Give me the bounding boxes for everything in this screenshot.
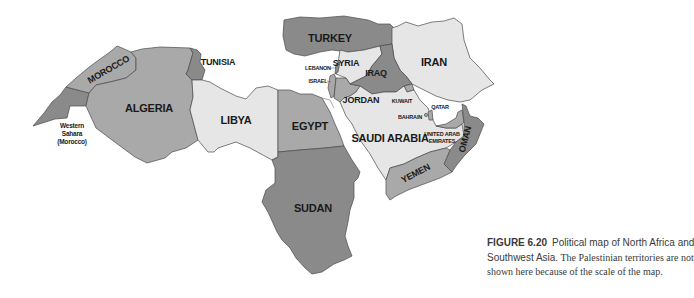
- label-algeria: ALGERIA: [125, 102, 173, 114]
- caption-line-3: shown here because of the scale of the m…: [487, 265, 618, 280]
- label-libya: LIBYA: [221, 114, 252, 126]
- label-syria: SYRIA: [333, 58, 360, 68]
- label-jordan: JORDAN: [343, 95, 380, 105]
- label-uae-2: EMIRATES: [429, 138, 456, 144]
- label-uae-1: UNITED ARAB: [424, 131, 460, 137]
- label-western-sahara-3: (Morocco): [57, 138, 87, 146]
- country-qatar: [428, 110, 433, 120]
- caption-line-1: FIGURE 6.20 Political map of North Afric…: [487, 236, 618, 251]
- caption-line1-text: Political map of North Africa and: [552, 237, 694, 248]
- label-western-sahara-2: Sahara: [62, 130, 83, 137]
- caption-line2-sans: Southwest Asia.: [487, 252, 558, 263]
- figure-caption: FIGURE 6.20 Political map of North Afric…: [487, 236, 618, 280]
- label-israel: ISRAEL: [309, 78, 329, 84]
- label-turkey: TURKEY: [308, 32, 353, 44]
- label-lebanon: LEBANON: [305, 65, 331, 71]
- country-western-sahara: [33, 87, 89, 126]
- figure-number: FIGURE 6.20: [487, 237, 547, 248]
- label-sudan: SUDAN: [294, 202, 332, 214]
- label-tunisia: TUNISIA: [201, 57, 236, 67]
- label-iraq: IRAQ: [365, 68, 387, 78]
- caption-line2-serif: The Palestinian territories are not: [560, 252, 693, 263]
- country-bahrain: [424, 113, 427, 116]
- caption-line-2: Southwest Asia. The Palestinian territor…: [487, 251, 618, 266]
- label-western-sahara-1: Western: [60, 122, 84, 129]
- label-kuwait: KUWAIT: [392, 98, 413, 104]
- label-qatar: QATAR: [431, 104, 449, 110]
- label-iran: IRAN: [421, 56, 447, 68]
- label-saudi-arabia: SAUDI ARABIA: [351, 132, 429, 144]
- country-uae: [436, 110, 464, 128]
- label-bahrain: BAHRAIN: [398, 114, 422, 120]
- label-egypt: EGYPT: [292, 120, 329, 132]
